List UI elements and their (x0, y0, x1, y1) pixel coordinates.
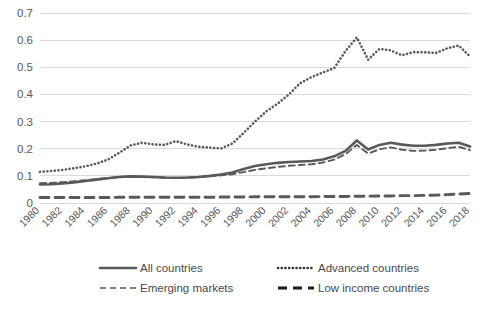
x-axis-tick-label: 1992 (152, 204, 177, 229)
x-axis-tick-label: 1996 (197, 204, 222, 229)
x-axis-tick-label: 2000 (243, 204, 268, 229)
x-axis-tick-label: 2006 (311, 204, 336, 229)
chart-legend: All countriesAdvanced countriesEmerging … (100, 262, 429, 294)
y-axis-tick-label: 0.5 (17, 61, 33, 73)
legend-label: Advanced countries (318, 262, 419, 274)
y-axis-tick-label: 0.6 (17, 34, 33, 46)
line-chart: 00.10.20.30.40.50.60.7 19801982198419861… (0, 0, 488, 309)
y-axis-tick-label: 0.3 (17, 116, 33, 128)
series-line (40, 37, 470, 171)
x-axis-tick-labels: 1980198219841986198819901992199419961998… (16, 204, 471, 229)
x-axis-tick-label: 2014 (401, 204, 426, 229)
x-axis-tick-label: 2002 (265, 204, 290, 229)
y-axis-tick-label: 0.4 (17, 88, 34, 100)
x-axis-tick-label: 2016 (424, 204, 449, 229)
y-axis-tick-label: 0.1 (17, 170, 33, 182)
x-axis-tick-label: 2008 (333, 204, 358, 229)
x-axis-tick-label: 1982 (39, 204, 64, 229)
x-axis-tick-label: 1998 (220, 204, 245, 229)
x-axis-tick-label: 1986 (84, 204, 109, 229)
series-line (40, 145, 470, 183)
x-axis-tick-label: 2004 (288, 204, 313, 229)
x-axis-tick-label: 1988 (107, 204, 132, 229)
x-axis-tick-label: 1984 (62, 204, 87, 229)
chart-container: 00.10.20.30.40.50.60.7 19801982198419861… (0, 0, 488, 309)
x-axis-tick-label: 2018 (446, 204, 471, 229)
x-axis-tick-label: 2010 (356, 204, 381, 229)
legend-label: All countries (140, 262, 203, 274)
legend-label: Low income countries (318, 282, 429, 294)
data-series-group (40, 37, 470, 197)
x-axis-tick-label: 1994 (175, 204, 200, 229)
series-line (40, 194, 470, 198)
x-axis-tick-label: 2012 (379, 204, 404, 229)
y-axis-tick-label: 0.7 (17, 7, 33, 19)
x-axis-tick-label: 1980 (16, 204, 41, 229)
legend-label: Emerging markets (140, 282, 234, 294)
y-axis-tick-labels: 00.10.20.30.40.50.60.7 (17, 7, 34, 209)
y-axis-tick-label: 0.2 (17, 143, 33, 155)
gridlines (40, 13, 470, 203)
x-axis-tick-label: 1990 (130, 204, 155, 229)
